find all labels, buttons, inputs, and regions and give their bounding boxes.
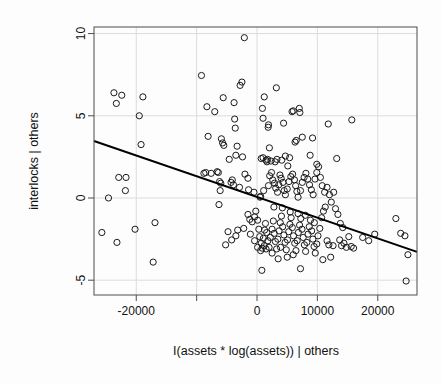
data-point	[233, 152, 239, 158]
data-point	[280, 120, 286, 126]
data-point	[241, 225, 247, 231]
data-point	[393, 215, 399, 221]
data-point	[261, 188, 267, 194]
data-point	[295, 194, 301, 200]
plot-canvas: -2000001000020000 -50510 I(assets * log(…	[0, 0, 441, 384]
data-point	[152, 220, 158, 226]
data-point	[315, 233, 321, 239]
data-point	[198, 72, 204, 78]
data-point	[204, 104, 210, 110]
data-point	[284, 254, 290, 260]
data-point	[270, 218, 276, 224]
y-axis-title: interlocks | others	[27, 112, 41, 210]
data-point	[239, 154, 245, 160]
x-axis-tick-label: 20000	[361, 304, 395, 318]
y-axis-tick-label: 10	[74, 27, 88, 41]
y-axis-tick-label: 5	[74, 112, 88, 119]
data-point	[229, 237, 235, 243]
data-point	[138, 141, 144, 147]
data-point	[403, 278, 409, 284]
data-point	[325, 121, 331, 127]
data-point	[140, 94, 146, 100]
data-point	[293, 183, 299, 189]
data-point	[218, 136, 224, 142]
data-point	[113, 100, 119, 106]
y-axis-tick-labels: -50510	[74, 27, 88, 286]
data-point	[205, 133, 211, 139]
y-axis-tick-label: 0	[74, 194, 88, 201]
data-point	[266, 145, 272, 151]
data-point	[265, 183, 271, 189]
data-point	[297, 109, 303, 115]
data-point	[231, 100, 237, 106]
data-point	[216, 201, 222, 207]
data-point	[259, 105, 265, 111]
gridlines	[94, 27, 417, 295]
data-point	[299, 134, 305, 140]
data-point	[320, 257, 326, 263]
data-point	[360, 234, 366, 240]
data-point	[253, 208, 259, 214]
data-point	[335, 211, 341, 217]
data-point	[111, 90, 117, 96]
data-point	[366, 238, 372, 244]
data-point	[116, 174, 122, 180]
data-point	[328, 254, 334, 260]
data-point	[259, 267, 265, 273]
data-point	[114, 239, 120, 245]
data-point	[150, 259, 156, 265]
data-point	[241, 35, 247, 41]
data-point	[285, 163, 291, 169]
data-point	[226, 156, 232, 162]
data-point	[405, 252, 411, 258]
data-point	[225, 229, 231, 235]
y-axis-tick-label: -5	[74, 275, 88, 286]
data-point	[212, 109, 218, 115]
data-point	[132, 226, 138, 232]
data-point	[278, 213, 284, 219]
data-point	[234, 143, 240, 149]
data-point	[232, 116, 238, 122]
data-point	[297, 188, 303, 194]
data-point	[292, 139, 298, 145]
data-point	[232, 125, 238, 131]
data-point	[317, 174, 323, 180]
plot-frame	[94, 27, 417, 295]
data-point	[262, 220, 268, 226]
x-axis-title: I(assets * log(assets)) | others	[173, 344, 339, 358]
data-point	[261, 94, 267, 100]
data-point	[288, 215, 294, 221]
data-point	[328, 199, 334, 205]
scatter-plot-figure: -2000001000020000 -50510 I(assets * log(…	[0, 0, 441, 384]
data-point	[217, 188, 223, 194]
data-point	[273, 85, 279, 91]
data-point	[271, 204, 277, 210]
data-point	[277, 244, 283, 250]
data-point	[269, 250, 275, 256]
data-point	[303, 248, 309, 254]
x-axis-tick-label: 10000	[301, 304, 335, 318]
x-axis-tick-label: 0	[254, 304, 261, 318]
x-axis-ticks	[136, 295, 377, 301]
x-axis-tick-labels: -2000001000020000	[118, 304, 395, 318]
data-point	[122, 188, 128, 194]
data-point	[307, 152, 313, 158]
regression-fit-line	[94, 141, 417, 252]
data-point	[297, 266, 303, 272]
data-point	[349, 117, 355, 123]
data-point	[346, 234, 352, 240]
data-point	[334, 155, 340, 161]
data-point	[247, 231, 253, 237]
data-point	[223, 242, 229, 248]
data-point	[119, 92, 125, 98]
data-point	[330, 243, 336, 249]
data-point	[99, 229, 105, 235]
y-axis-ticks	[88, 34, 94, 281]
data-point	[220, 95, 226, 101]
data-point	[309, 135, 315, 141]
data-point	[275, 256, 281, 262]
data-point	[123, 174, 129, 180]
data-point	[282, 192, 288, 198]
x-axis-tick-label: -20000	[118, 304, 156, 318]
